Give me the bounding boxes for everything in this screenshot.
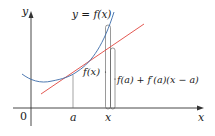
approximation-label: f(a) + f′(a)(x − a) xyxy=(116,74,199,85)
fx-tick xyxy=(105,71,106,72)
y-axis-label: y xyxy=(21,5,29,18)
approximation-bracket xyxy=(111,48,116,109)
y-axis-arrow-icon xyxy=(29,11,34,18)
x-axis-arrow-icon xyxy=(197,106,204,111)
linear-approximation-diagram: y x 0 a x y = f(x) f(x) f(a) + f′(a)(x −… xyxy=(0,0,215,136)
a-label: a xyxy=(70,111,77,124)
approx-tick xyxy=(114,78,115,79)
origin-label: 0 xyxy=(20,110,27,123)
curve-label: y = f(x) xyxy=(71,8,111,20)
fx-label: f(x) xyxy=(82,66,100,77)
curve-fx xyxy=(22,12,114,82)
x-axis-label: x xyxy=(198,111,205,124)
x-point-label: x xyxy=(105,111,112,124)
fx-bracket xyxy=(106,25,111,109)
